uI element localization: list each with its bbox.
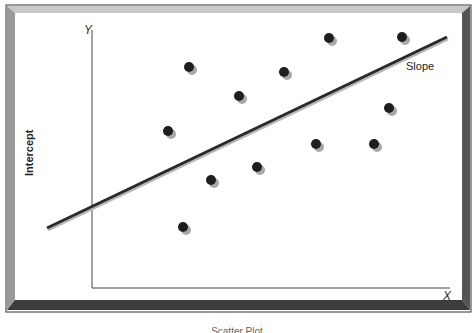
data-point bbox=[163, 126, 173, 136]
data-point bbox=[184, 62, 194, 72]
data-point bbox=[369, 139, 379, 149]
frame-outline bbox=[6, 5, 471, 312]
data-point bbox=[252, 162, 262, 172]
slope-annotation: Slope bbox=[406, 61, 434, 72]
data-point bbox=[279, 67, 289, 77]
frame-left-bevel bbox=[7, 6, 15, 310]
frame-top-bevel bbox=[7, 6, 470, 13]
data-point bbox=[384, 103, 394, 113]
data-point bbox=[311, 139, 321, 149]
chart-frame: Y X Slope Intercept Scatter Plot bbox=[0, 0, 474, 333]
x-axis-label: X bbox=[443, 290, 451, 302]
data-point bbox=[324, 33, 334, 43]
data-point bbox=[397, 32, 407, 42]
data-point bbox=[234, 91, 244, 101]
figure-caption: Scatter Plot bbox=[0, 326, 474, 333]
data-point bbox=[178, 222, 188, 232]
intercept-annotation: Intercept bbox=[23, 130, 35, 176]
frame-right-bevel bbox=[462, 6, 470, 310]
y-axis-label: Y bbox=[84, 24, 92, 36]
frame-bottom-bevel bbox=[7, 300, 470, 310]
scatter-plot-canvas bbox=[0, 0, 474, 333]
data-point bbox=[206, 175, 216, 185]
